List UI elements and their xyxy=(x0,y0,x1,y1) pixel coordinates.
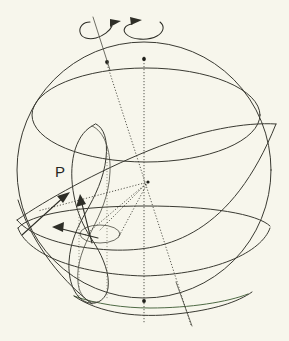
radius-vectors-dotted xyxy=(38,180,150,238)
precession-small-circle xyxy=(80,225,120,243)
upper-latitude-circle xyxy=(32,68,260,162)
rotation-axis xyxy=(142,57,146,324)
rotation-arrow-right-icon xyxy=(124,17,163,39)
nutation-figure-eight xyxy=(69,124,110,303)
point-p-label: P xyxy=(55,163,65,180)
bottom-latitude-circle xyxy=(74,292,252,315)
diagram-canvas: P xyxy=(0,0,289,341)
rotation-arrow-left-icon xyxy=(80,19,121,39)
lower-left-crossing-line xyxy=(18,200,92,304)
precession-diagram-figure: P xyxy=(0,0,289,341)
